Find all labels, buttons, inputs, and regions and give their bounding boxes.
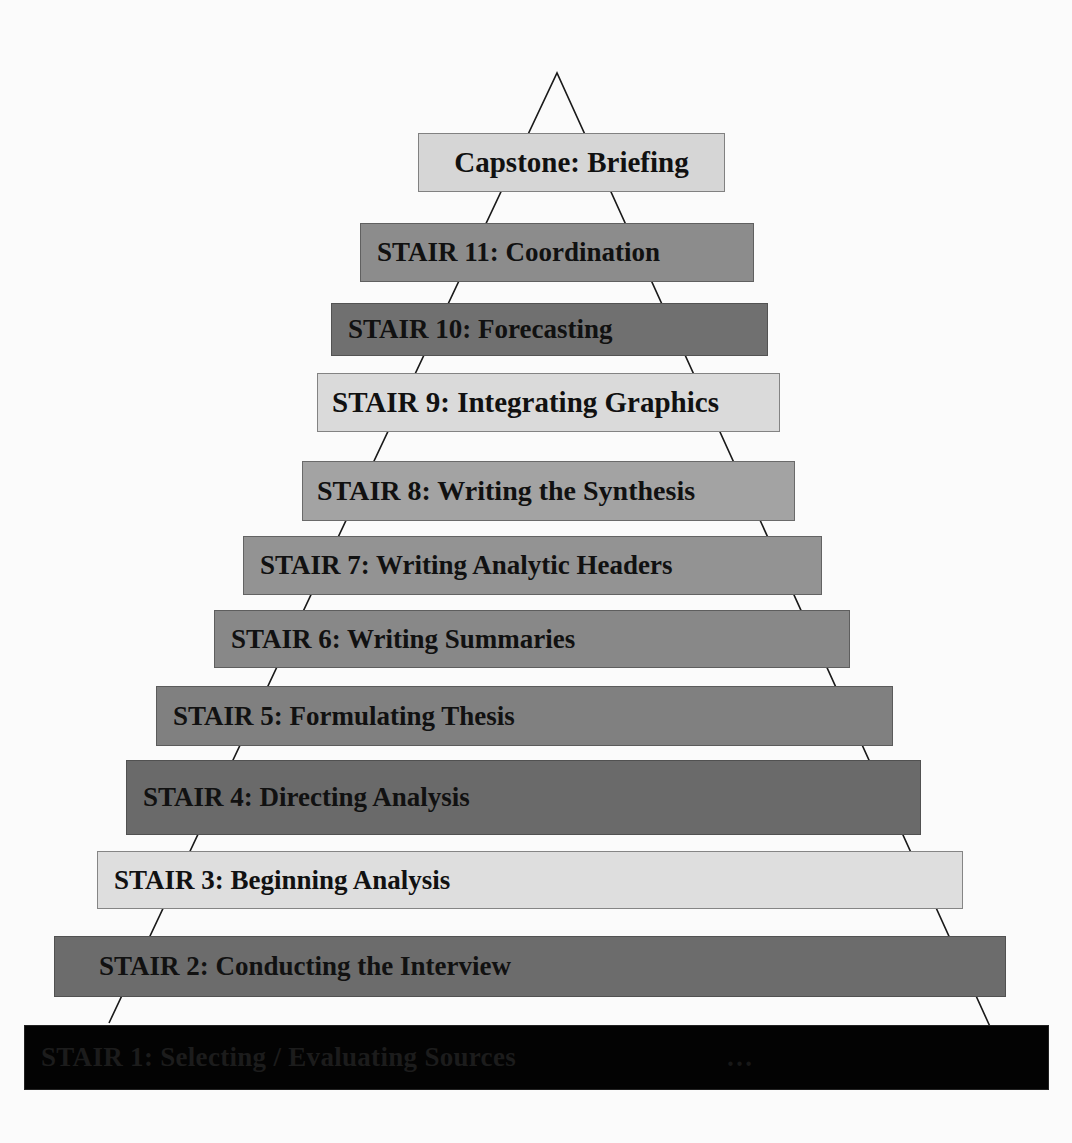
stair-label: STAIR 1: Selecting / Evaluating Sources [41,1042,516,1073]
stair-bar-stair-2: STAIR 2: Conducting the Interview [54,936,1006,997]
stair-bar-stair-10: STAIR 10: Forecasting [331,303,768,356]
stair-bar-stair-11: STAIR 11: Coordination [360,223,754,282]
stair-label: Capstone: Briefing [454,146,688,179]
stair-label-secondary: … [726,1042,753,1073]
stair-bar-stair-6: STAIR 6: Writing Summaries [214,610,850,668]
stair-bar-stair-5: STAIR 5: Formulating Thesis [156,686,893,746]
stair-label: STAIR 3: Beginning Analysis [114,865,450,896]
stair-bar-stair-8: STAIR 8: Writing the Synthesis [302,461,795,521]
stair-bar-stair-7: STAIR 7: Writing Analytic Headers [243,536,822,595]
stair-label: STAIR 10: Forecasting [348,314,613,345]
stair-label: STAIR 8: Writing the Synthesis [317,475,695,507]
stair-label: STAIR 11: Coordination [377,237,660,268]
stair-bar-capstone: Capstone: Briefing [418,133,725,192]
stair-label: STAIR 2: Conducting the Interview [99,951,511,982]
stair-label: STAIR 5: Formulating Thesis [173,701,515,732]
stair-bar-stair-9: STAIR 9: Integrating Graphics [317,373,780,432]
stair-label: STAIR 4: Directing Analysis [143,782,470,813]
stair-bar-stair-4: STAIR 4: Directing Analysis [126,760,921,835]
stair-label: STAIR 9: Integrating Graphics [332,386,719,419]
diagram-canvas: Capstone: BriefingSTAIR 11: Coordination… [0,0,1072,1143]
stair-bar-stair-3: STAIR 3: Beginning Analysis [97,851,963,909]
stair-bar-stair-1: STAIR 1: Selecting / Evaluating Sources… [24,1025,1049,1090]
stair-label: STAIR 7: Writing Analytic Headers [260,550,673,581]
stair-label: STAIR 6: Writing Summaries [231,624,575,655]
